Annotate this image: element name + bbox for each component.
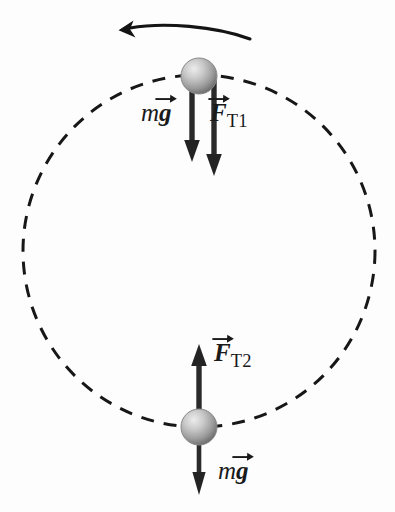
weight-label-bottom: m g bbox=[218, 458, 249, 483]
tension-label-bottom: FT2 bbox=[214, 340, 252, 370]
figure-canvas bbox=[0, 0, 395, 512]
counterclockwise-motion-arrow bbox=[119, 21, 251, 40]
tension-vector-symbol-top: F bbox=[210, 100, 227, 125]
tension-symbol-top-glyph: F bbox=[210, 99, 227, 126]
weight-label-top: m g bbox=[141, 100, 172, 125]
mass-symbol-bottom: m bbox=[218, 457, 236, 484]
tension-subscript-bottom: T2 bbox=[231, 351, 252, 371]
gravity-symbol-bottom-glyph: g bbox=[236, 457, 249, 484]
ball-bottom bbox=[181, 409, 217, 445]
physics-diagram: m g FT1 bbox=[0, 0, 395, 512]
tension-label-top: FT1 bbox=[210, 100, 248, 130]
tension-subscript-top: T1 bbox=[227, 111, 248, 131]
tension-symbol-bottom-glyph: F bbox=[214, 339, 231, 366]
gravity-vector-symbol-top: g bbox=[159, 100, 172, 125]
gravity-symbol-top-glyph: g bbox=[159, 99, 172, 126]
tension-vector-symbol-bottom: F bbox=[214, 340, 231, 365]
mass-symbol-top: m bbox=[141, 99, 159, 126]
gravity-vector-symbol-bottom: g bbox=[236, 458, 249, 483]
ball-top bbox=[181, 58, 217, 94]
